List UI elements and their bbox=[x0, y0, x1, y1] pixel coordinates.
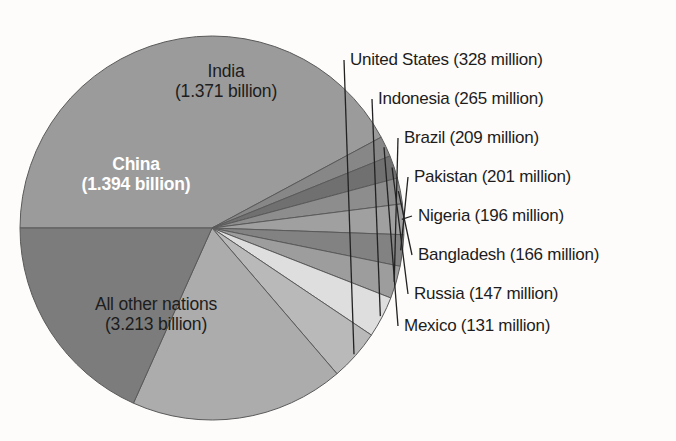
slice-label-india: India (1.371 billion) bbox=[136, 62, 316, 101]
slice-label-india-line1: India bbox=[136, 62, 316, 82]
callout-label-indonesia: Indonesia (265 million) bbox=[378, 89, 543, 109]
callout-label-united-states: United States (328 million) bbox=[350, 50, 543, 70]
slice-label-china-line2: (1.394 billion) bbox=[46, 175, 226, 195]
slice-label-china: China (1.394 billion) bbox=[46, 155, 226, 194]
slice-label-other-line2: (3.213 billion) bbox=[46, 315, 266, 335]
slice-label-india-line2: (1.371 billion) bbox=[136, 82, 316, 102]
callout-label-pakistan: Pakistan (201 million) bbox=[414, 167, 571, 187]
pie-chart-canvas bbox=[0, 0, 676, 441]
pie-chart-figure: China (1.394 billion) India (1.371 billi… bbox=[0, 0, 676, 441]
slice-label-china-line1: China bbox=[46, 155, 226, 175]
slice-label-all-other-nations: All other nations (3.213 billion) bbox=[46, 295, 266, 334]
callout-label-bangladesh: Bangladesh (166 million) bbox=[418, 245, 599, 265]
callout-label-mexico: Mexico (131 million) bbox=[404, 316, 550, 336]
callout-label-brazil: Brazil (209 million) bbox=[404, 128, 539, 148]
callout-label-russia: Russia (147 million) bbox=[414, 284, 558, 304]
slice-label-other-line1: All other nations bbox=[46, 295, 266, 315]
callout-label-nigeria: Nigeria (196 million) bbox=[418, 206, 564, 226]
